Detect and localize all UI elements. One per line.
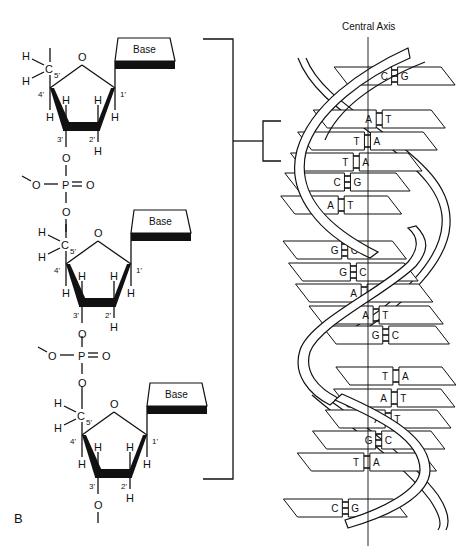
oxygen-double: O (102, 350, 111, 362)
base-pair: AT (281, 196, 402, 214)
ring-oxygen: O (94, 227, 103, 239)
figure-label: B (14, 511, 23, 526)
base-left-label: T (382, 371, 388, 382)
base-label: Base (149, 216, 172, 227)
base-label: Base (165, 389, 188, 400)
h-atom: H (22, 50, 30, 62)
h-atom: H (54, 397, 62, 409)
base-pair: TA (336, 367, 456, 385)
base-left-label: A (380, 393, 387, 404)
h-atom: H (127, 287, 135, 299)
oxygen-double: O (86, 179, 95, 191)
base-left-label: A (365, 114, 372, 125)
c4-prime: 4' (70, 437, 76, 446)
c5-prime: 5' (70, 247, 76, 256)
base-pair: TA (297, 453, 436, 471)
base-right-label: C (392, 330, 399, 341)
c4-prime: 4' (54, 266, 60, 275)
base-left-label: A (350, 288, 357, 299)
h-atom: H (46, 111, 54, 123)
c5-atom: C (61, 239, 69, 251)
h-atom: H (110, 321, 118, 333)
base-label: Base (133, 44, 156, 55)
phosphate-2: P O O O (38, 336, 111, 389)
base-right-label: G (353, 177, 361, 188)
oxygen-left: O (32, 179, 41, 191)
c1-prime: 1' (136, 266, 142, 275)
base-left-label: T (353, 136, 359, 147)
o3-atom: O (62, 152, 71, 164)
ring-oxygen: O (78, 51, 87, 63)
h-atom: H (143, 458, 151, 470)
c1-prime: 1' (120, 90, 126, 99)
base-right-label: T (385, 114, 391, 125)
base-pair: TA (298, 132, 438, 150)
c2-prime: 2' (121, 482, 127, 491)
base-left-label: G (331, 245, 339, 256)
base-right-label: A (373, 136, 380, 147)
base-left-label: G (339, 267, 347, 278)
base-right-label: C (385, 435, 392, 446)
phosphorus-atom: P (62, 179, 69, 191)
c5-prime: 5' (86, 418, 92, 427)
base-left-label: A (327, 200, 334, 211)
base-pair: TA (290, 153, 422, 171)
base-right-label: A (402, 371, 409, 382)
base-right-label: A (373, 457, 380, 468)
base-left-label: T (353, 457, 359, 468)
c2-prime: 2' (89, 135, 95, 144)
base-left-label: C (333, 177, 340, 188)
base-block: Base (115, 38, 175, 69)
o3-atom: O (94, 499, 103, 511)
phosphorus-atom: P (78, 350, 85, 362)
h-atom: H (38, 251, 46, 263)
base-left-label: T (342, 157, 348, 168)
h-atom: H (78, 270, 86, 282)
h-atom: H (22, 75, 30, 87)
h-atom: H (54, 422, 62, 434)
phosphate-1: P O O O (22, 165, 95, 224)
h-atom: H (78, 458, 86, 470)
nucleotide-3: Base O H H C 5' 4' 1' 3' 2' (54, 383, 207, 523)
base-right-label: T (347, 200, 353, 211)
double-helix: Central Axis CGATTATACGATGCGCATATGCTAATA… (281, 21, 456, 546)
h-atom: H (62, 94, 70, 106)
oxygen-left: O (48, 350, 57, 362)
ring-oxygen: O (110, 398, 119, 410)
h-atom: H (38, 226, 46, 238)
c4-prime: 4' (38, 90, 44, 99)
base-pair: GC (322, 326, 449, 344)
base-left-label: G (372, 330, 380, 341)
c5-prime: 5' (54, 71, 60, 80)
h-atom: H (94, 441, 102, 453)
backbone-chain: Base O H H C 5' 4' 1' 3' 2' (14, 38, 207, 526)
nucleotide-1: Base O H H C 5' 4' 1' 3' 2' (22, 38, 175, 164)
c3-prime: 3' (73, 311, 79, 320)
nucleotide-2: Base O H H C 5' 4' 1' 3' 2' (38, 210, 191, 340)
base-left-label: G (365, 435, 373, 446)
c3-prime: 3' (57, 135, 63, 144)
base-right-label: G (351, 503, 359, 514)
c2-prime: 2' (105, 311, 111, 320)
base-right-label: T (400, 393, 406, 404)
base-pair: GC (313, 431, 445, 449)
c5-atom: C (77, 410, 85, 422)
h-atom: H (111, 111, 119, 123)
central-axis-label: Central Axis (342, 21, 395, 32)
oxygen-bottom: O (62, 206, 71, 218)
base-left-label: C (331, 503, 338, 514)
h-atom: H (94, 94, 102, 106)
base-block: Base (131, 210, 191, 241)
h-atom: H (126, 492, 134, 504)
c1-prime: 1' (152, 437, 158, 446)
bracket-connector (203, 39, 281, 479)
h-atom: H (62, 287, 70, 299)
h-atom: H (94, 145, 102, 157)
base-right-label: C (359, 267, 366, 278)
dna-structure-diagram: Base O H H C 5' 4' 1' 3' 2' (0, 0, 470, 559)
base-block: Base (147, 383, 207, 414)
base-right-label: T (382, 310, 388, 321)
c3-prime: 3' (89, 482, 95, 491)
h-atom: H (110, 270, 118, 282)
h-atom: H (126, 441, 134, 453)
